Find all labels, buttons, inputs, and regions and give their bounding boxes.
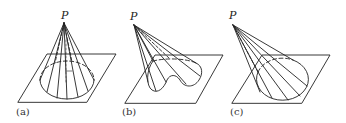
plane-b [125, 55, 223, 103]
caption-a: (a) [16, 106, 30, 117]
caption-c: (c) [230, 106, 244, 117]
apex-label-b: P [129, 10, 138, 23]
panel-a [18, 23, 116, 102]
caption-b: (b) [122, 106, 136, 117]
base-curve-b-front [148, 61, 202, 91]
cone-figure: P P P (a) (b) (c) [0, 0, 346, 123]
panel-c [232, 25, 330, 103]
apex-label-c: P [228, 9, 237, 22]
generators-c [233, 25, 307, 100]
apex-label-a: P [60, 9, 69, 22]
panel-b [125, 25, 223, 103]
plane-c [232, 55, 330, 103]
